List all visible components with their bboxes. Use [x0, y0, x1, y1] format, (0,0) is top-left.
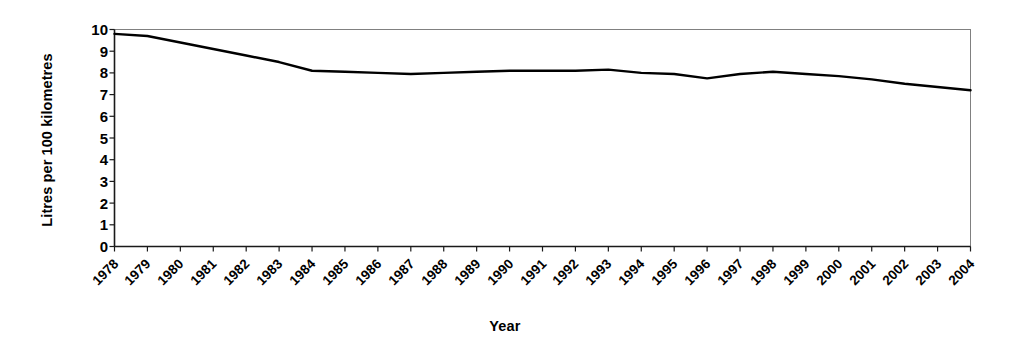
- line-chart-figure: Litres per 100 kilometres 109876543210 1…: [0, 0, 1010, 352]
- x-axis-title: Year: [0, 318, 1010, 334]
- plot-border: [115, 30, 971, 247]
- plot-area: [0, 0, 1010, 352]
